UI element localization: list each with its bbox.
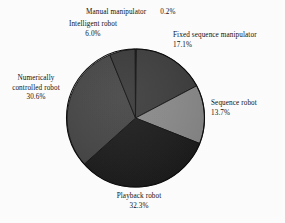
pie-label-sequence-robot: Sequence robot 13.7% [211, 99, 285, 118]
pie-chart: Manual manipulator 0.2% Intelligent robo… [0, 0, 285, 223]
pie-outline [67, 49, 205, 187]
pie-label-numerically-controlled-robot-value: 30.6% [2, 93, 70, 103]
pie-label-manual-manipulator: Manual manipulator 0.2% [86, 8, 182, 18]
pie-label-intelligent-robot: Intelligent robot 6.0% [59, 20, 127, 39]
pie-label-playback-robot-value: 32.3% [96, 202, 182, 212]
pie-label-manual-manipulator-value: 0.2% [160, 8, 175, 16]
pie-label-fixed-sequence-manipulator-name: Fixed sequence manipulator [173, 31, 285, 41]
pie-label-fixed-sequence-manipulator: Fixed sequence manipulator 17.1% [173, 31, 285, 50]
pie-label-playback-robot: Playback robot 32.3% [96, 192, 182, 211]
pie-slices [67, 49, 205, 187]
pie-label-numerically-controlled-robot-name-line1: Numerically [2, 74, 70, 84]
pie-label-numerically-controlled-robot: Numerically controlled robot 30.6% [2, 74, 70, 103]
pie-label-numerically-controlled-robot-name-line2: controlled robot [2, 84, 70, 94]
pie-label-fixed-sequence-manipulator-value: 17.1% [173, 41, 285, 51]
pie-label-playback-robot-name: Playback robot [96, 192, 182, 202]
pie-label-intelligent-robot-value: 6.0% [59, 30, 127, 40]
pie-label-manual-manipulator-name: Manual manipulator [86, 8, 146, 16]
pie-label-sequence-robot-value: 13.7% [211, 109, 285, 119]
pie-label-sequence-robot-name: Sequence robot [211, 99, 285, 109]
pie-label-intelligent-robot-name: Intelligent robot [59, 20, 127, 30]
